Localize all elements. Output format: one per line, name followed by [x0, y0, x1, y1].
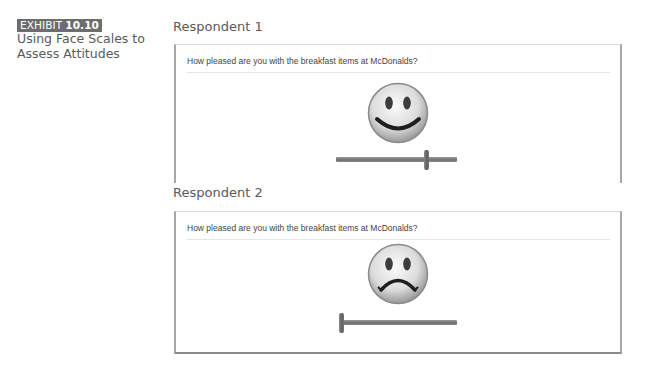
- slider-track[interactable]: [336, 157, 457, 162]
- slider-thumb[interactable]: [424, 150, 429, 170]
- survey-panel-respondent-1: How pleased are you with the breakfast i…: [174, 44, 622, 183]
- question-divider: [187, 72, 610, 73]
- attitude-slider[interactable]: [336, 150, 457, 172]
- exhibit-number: 10.10: [65, 19, 99, 31]
- survey-panel-respondent-2: How pleased are you with the breakfast i…: [174, 211, 622, 354]
- happy-face-icon: [367, 82, 429, 144]
- respondent-2-heading: Respondent 2: [173, 185, 263, 200]
- survey-question: How pleased are you with the breakfast i…: [187, 56, 418, 66]
- sad-face-icon: [367, 243, 429, 305]
- question-divider: [187, 239, 610, 240]
- exhibit-label-word: EXHIBIT: [20, 19, 62, 31]
- attitude-slider[interactable]: [339, 313, 457, 335]
- respondent-1-heading: Respondent 1: [173, 19, 263, 34]
- slider-track[interactable]: [339, 320, 457, 325]
- exhibit-title: Using Face Scales to Assess Attitudes: [17, 31, 157, 61]
- survey-question: How pleased are you with the breakfast i…: [187, 223, 418, 233]
- slider-thumb[interactable]: [339, 313, 344, 333]
